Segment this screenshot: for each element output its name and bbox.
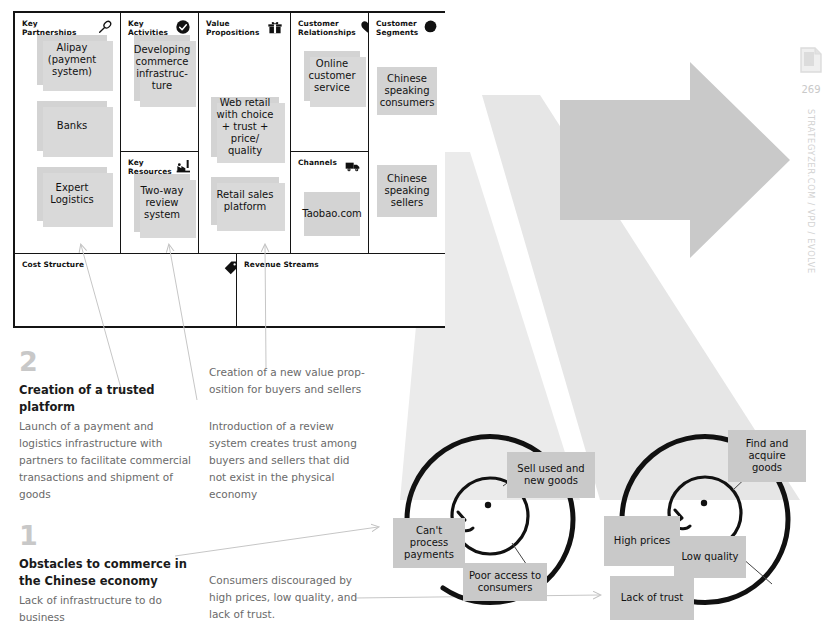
diagram-canvas: Key Partnerships Alipay (payment system)…	[0, 0, 830, 641]
bmc-block-key-partnerships[interactable]: Key Partnerships Alipay (payment system)…	[15, 13, 121, 253]
circle-label[interactable]: Can't process payments	[393, 518, 465, 568]
page-number: 269	[796, 84, 826, 95]
circle-label[interactable]: Find and acquire goods	[728, 430, 806, 482]
circle-label[interactable]: High prices	[604, 516, 680, 566]
block-header: Channels	[298, 158, 361, 174]
gift-box-icon	[267, 19, 283, 35]
annotation-consumers-discouraged: Consumers discouraged by high prices, lo…	[209, 572, 374, 623]
eye	[701, 500, 707, 506]
bmc-block-channels[interactable]: Channels Taobao.com	[291, 151, 369, 253]
annotation-step-1: 1 Obstacles to commerce in the Chinese e…	[19, 522, 194, 626]
factory-icon	[176, 158, 192, 174]
sticky-note[interactable]: Retail sales platform	[211, 177, 279, 225]
annotation-step-2: 2 Creation of a trusted platform Launch …	[19, 348, 194, 503]
right-rail: 269 STRATEGYZER.COM / VPD / EVOLVE	[796, 46, 826, 274]
bmc-block-customer-relationships[interactable]: Customer Relationships Online customer s…	[291, 13, 369, 151]
bmc-block-revenue-streams[interactable]: Revenue Streams	[237, 253, 445, 326]
block-title: Value Propositions	[206, 19, 263, 38]
block-header: Revenue Streams	[244, 260, 438, 269]
block-header: Customer Relationships	[298, 19, 361, 38]
sticky-note[interactable]: Chinese speaking sellers	[377, 165, 437, 217]
block-title: Revenue Streams	[244, 260, 319, 269]
circle-label[interactable]: Poor access to consumers	[463, 563, 547, 601]
sticky-note[interactable]: Expert Logistics	[37, 167, 107, 221]
bmc-block-cost-structure[interactable]: Cost Structure	[15, 253, 237, 326]
buyer-circle-diagram: Find and acquire goods High prices Low q…	[600, 408, 815, 633]
sticky-note[interactable]: Banks	[37, 101, 107, 151]
step-number: 2	[19, 348, 194, 375]
sticky-note[interactable]: Taobao.com	[304, 192, 360, 236]
step-heading: Obstacles to commerce in the Chinese eco…	[19, 556, 194, 589]
eye	[485, 502, 491, 508]
block-title: Channels	[298, 158, 337, 167]
seller-circle-diagram: Sell used and new goods Can't process pa…	[385, 408, 595, 633]
block-header: Cost Structure	[22, 260, 229, 269]
block-title: Cost Structure	[22, 260, 84, 269]
person-head-icon	[422, 19, 438, 35]
document-page-icon	[799, 46, 823, 74]
bmc-block-value-propositions[interactable]: Value Propositions Web retail with choic…	[199, 13, 291, 253]
block-header: Value Propositions	[206, 19, 283, 38]
block-title: Customer Segments	[376, 19, 418, 38]
block-header: Customer Segments	[376, 19, 438, 38]
sticky-note[interactable]: Two-way review system	[134, 174, 190, 232]
annotation-review-system: Introduction of a review system creates …	[209, 418, 369, 503]
check-circle-icon	[175, 19, 191, 35]
business-model-canvas: Key Partnerships Alipay (payment system)…	[13, 11, 445, 328]
block-title: Customer Relationships	[298, 19, 356, 38]
sticky-note[interactable]: Alipay (payment system)	[37, 35, 107, 85]
step-number: 1	[19, 522, 194, 549]
delivery-truck-icon	[345, 158, 361, 174]
annotation-value-proposition: Creation of a new value prop-osition for…	[209, 364, 369, 398]
evolution-arrow	[560, 62, 790, 258]
step-body: Launch of a payment and logistics infras…	[19, 418, 194, 503]
sticky-note[interactable]: Developing commerce infrastruc-ture	[134, 35, 190, 101]
sticky-note[interactable]: Online customer service	[304, 51, 360, 101]
bmc-block-customer-segments[interactable]: Customer Segments Chinese speaking consu…	[369, 13, 445, 253]
sticky-note[interactable]: Chinese speaking consumers	[377, 67, 437, 115]
step-body: Lack of infrastructure to do business	[19, 592, 194, 626]
connector-to-seller-circle	[175, 527, 378, 556]
step-heading: Creation of a trusted platform	[19, 382, 194, 415]
circle-label[interactable]: Low quality	[674, 536, 746, 578]
sticky-note[interactable]: Web retail with choice + trust + price/ …	[211, 97, 279, 157]
chain-link-icon	[97, 19, 113, 35]
bmc-block-key-activities[interactable]: Key Activities Developing commerce infra…	[121, 13, 199, 151]
circle-label[interactable]: Sell used and new goods	[507, 452, 595, 498]
publisher-credit: STRATEGYZER.COM / VPD / EVOLVE	[806, 109, 816, 274]
circle-label[interactable]: Lack of trust	[610, 576, 694, 620]
bmc-block-key-resources[interactable]: Key Resources Two-way review system	[121, 151, 199, 253]
